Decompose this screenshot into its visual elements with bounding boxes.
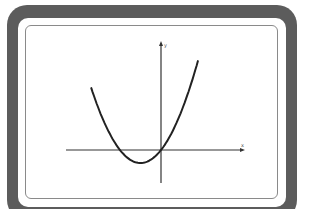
x-axis-label: x — [241, 142, 244, 148]
parabola-curve — [91, 61, 198, 163]
y-axis-label: y — [164, 42, 167, 49]
parabola-graph: x y — [0, 0, 309, 209]
y-axis-arrow-icon — [159, 41, 163, 46]
x-axis-arrow-icon — [240, 148, 245, 152]
